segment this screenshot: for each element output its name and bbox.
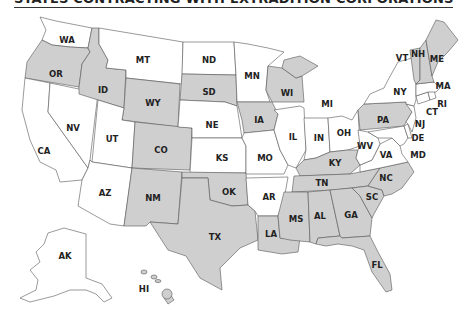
label-FL: FL [371, 260, 383, 270]
label-ND: ND [202, 55, 216, 65]
label-AK: AK [58, 251, 72, 261]
label-NY: NY [393, 87, 407, 97]
label-WA: WA [59, 35, 75, 45]
label-DE: DE [412, 133, 425, 143]
label-NE: NE [206, 120, 219, 130]
label-SD: SD [202, 87, 215, 97]
label-RI: RI [437, 99, 447, 109]
label-VT: VT [396, 53, 409, 63]
state-AK[interactable] [20, 228, 112, 302]
label-OH: OH [337, 128, 351, 138]
label-OK: OK [222, 187, 236, 197]
label-AR: AR [262, 192, 276, 202]
label-CA: CA [38, 146, 51, 156]
label-NM: NM [145, 193, 161, 203]
label-MN: MN [244, 71, 260, 81]
label-ME: ME [430, 54, 444, 64]
label-MD: MD [410, 150, 426, 160]
label-WI: WI [281, 88, 294, 98]
state-HI-island[interactable] [151, 275, 157, 279]
label-NH: NH [411, 49, 425, 59]
label-SC: SC [366, 192, 378, 202]
label-NJ: NJ [415, 119, 425, 129]
label-MT: MT [136, 55, 150, 65]
label-TX: TX [209, 232, 222, 242]
label-GA: GA [344, 210, 358, 220]
label-UT: UT [106, 134, 119, 144]
state-HI-island[interactable] [155, 280, 161, 283]
label-HI: HI [139, 284, 149, 294]
label-AL: AL [314, 211, 327, 221]
label-LA: LA [265, 229, 277, 239]
label-ID: ID [98, 85, 108, 95]
label-MI: MI [321, 99, 333, 109]
label-MO: MO [257, 153, 273, 163]
label-MA: MA [435, 81, 450, 91]
us-states-map: WA OR ID MT WY ND SD NV UT CO CA AZ NM N… [0, 0, 474, 310]
label-CO: CO [154, 145, 167, 155]
label-NV: NV [66, 123, 80, 133]
state-HI-island[interactable] [141, 270, 147, 274]
label-WV: WV [357, 141, 373, 151]
label-NC: NC [379, 173, 392, 183]
state-ME[interactable] [426, 20, 458, 76]
state-HI-island[interactable] [162, 289, 172, 299]
label-PA: PA [377, 115, 389, 125]
label-IA: IA [254, 115, 264, 125]
label-TN: TN [316, 178, 329, 188]
state-NY[interactable] [364, 58, 416, 106]
label-VA: VA [380, 150, 393, 160]
label-IL: IL [289, 132, 298, 142]
label-AZ: AZ [99, 188, 112, 198]
label-WY: WY [145, 98, 161, 108]
label-KS: KS [216, 153, 229, 163]
label-MS: MS [289, 214, 304, 224]
label-OR: OR [49, 69, 63, 79]
label-IN: IN [314, 133, 324, 143]
label-KY: KY [329, 158, 343, 168]
